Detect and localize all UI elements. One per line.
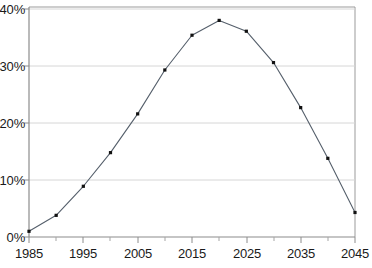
- x-tick-label-2045: 2045: [328, 247, 372, 260]
- line-chart-plot: [0, 0, 372, 268]
- y-tick-label-20: 20%: [0, 117, 25, 130]
- y-tick-label-0: 0%: [0, 231, 25, 244]
- y-tick-label-30: 30%: [0, 60, 25, 73]
- y-tick-label-10: 10%: [0, 174, 25, 187]
- x-tick-label-2035: 2035: [274, 247, 328, 260]
- x-tick-label-2025: 2025: [220, 247, 274, 260]
- data-point-marker: [272, 61, 275, 64]
- x-tick-label-2015: 2015: [165, 247, 219, 260]
- x-tick-label-2005: 2005: [111, 247, 165, 260]
- data-point-marker: [326, 157, 329, 160]
- chart-container: 40% 30% 20% 10% 0% 1985 1995 2005 2015 2…: [0, 0, 372, 268]
- x-tick-label-1995: 1995: [56, 247, 110, 260]
- data-point-marker: [136, 112, 139, 115]
- data-point-marker: [27, 230, 30, 233]
- data-series-line: [29, 20, 355, 231]
- x-tick-label-1985: 1985: [2, 247, 56, 260]
- plot-frame: [29, 7, 355, 237]
- x-axis-major-ticks: [29, 237, 355, 243]
- data-point-marker: [353, 211, 356, 214]
- data-point-marker: [82, 185, 85, 188]
- data-point-marker: [218, 19, 221, 22]
- data-point-markers: [27, 19, 356, 233]
- data-point-marker: [245, 30, 248, 33]
- data-point-marker: [163, 68, 166, 71]
- data-point-marker: [55, 214, 58, 217]
- data-point-marker: [299, 106, 302, 109]
- data-point-marker: [109, 151, 112, 154]
- data-point-marker: [190, 34, 193, 37]
- y-tick-label-40: 40%: [0, 3, 25, 16]
